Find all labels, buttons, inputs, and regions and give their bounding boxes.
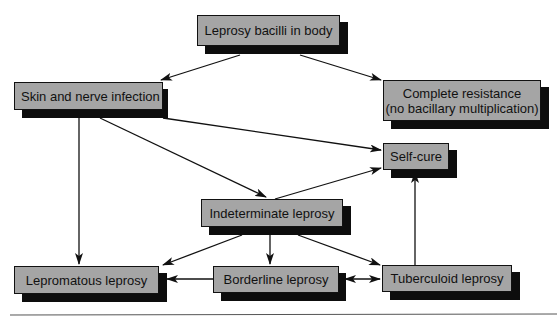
node-resistance-line2: (no bacillary multiplication) (385, 101, 538, 116)
node-indeterminate-label: Indeterminate leprosy (201, 199, 343, 227)
node-bacilli-label: Leprosy bacilli in body (197, 15, 340, 46)
bottom-rule (10, 314, 557, 315)
node-borderline-label: Borderline leprosy (213, 266, 339, 293)
node-lepromatous-label: Lepromatous leprosy (14, 266, 159, 294)
edge-indeterminate-selfcure (275, 168, 381, 199)
node-resistance-box: Complete resistance (no bacillary multip… (383, 80, 541, 121)
edge-skin-selfcure (163, 118, 381, 150)
edge-bacilli-skin (161, 55, 240, 80)
edge-indeterminate-lepromatous (163, 235, 242, 265)
edge-indeterminate-tuberculoid (298, 235, 380, 265)
edge-bacilli-resistance (300, 55, 381, 80)
node-selfcure-label: Self-cure (383, 143, 449, 170)
node-resistance-line1: Complete resistance (403, 86, 522, 101)
node-tuberculoid-label: Tuberculoid leprosy (382, 265, 512, 292)
node-skin-label: Skin and nerve infection (14, 82, 163, 110)
